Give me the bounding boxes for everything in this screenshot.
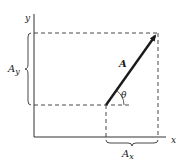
ay-label-subscript: y (14, 67, 20, 76)
y-axis-label: y (24, 13, 31, 23)
vector-a-label: A (118, 58, 127, 69)
ax-brace (106, 140, 158, 146)
vector-components-diagram: y x A θ Ay Ax (0, 0, 187, 165)
vector-a-arrow (106, 36, 155, 105)
ay-label-base: A (7, 63, 15, 74)
ay-label: Ay (7, 63, 20, 76)
x-axis-label: x (171, 135, 176, 145)
ax-label: Ax (121, 148, 134, 161)
theta-label: θ (121, 90, 127, 100)
ay-brace (25, 33, 31, 105)
ax-label-base: A (121, 148, 129, 159)
ax-label-subscript: x (129, 152, 134, 161)
